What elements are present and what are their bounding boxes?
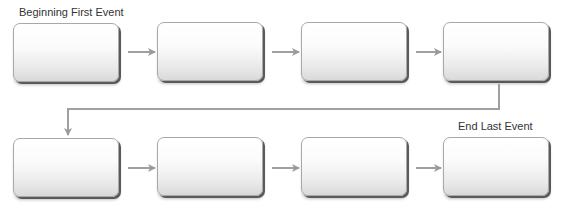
connector-arrows — [0, 0, 565, 218]
wrap-arrow-icon — [68, 84, 499, 135]
